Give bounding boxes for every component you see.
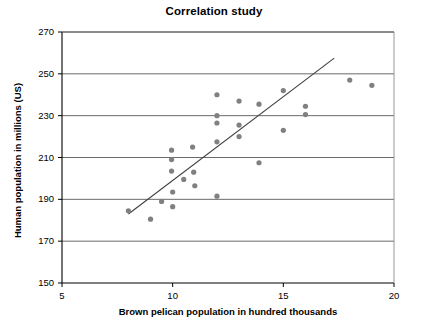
data-point <box>369 83 374 88</box>
data-point <box>126 208 131 213</box>
data-point <box>214 113 219 118</box>
y-tick-label: 190 <box>20 193 54 204</box>
data-point <box>191 170 196 175</box>
data-point <box>214 139 219 144</box>
x-tick-label: 15 <box>268 290 298 301</box>
data-point <box>347 78 352 83</box>
data-point <box>169 168 174 173</box>
chart-container: Correlation study Human population in mi… <box>0 0 428 331</box>
data-point <box>169 157 174 162</box>
data-point <box>190 144 195 149</box>
gridlines <box>62 32 394 241</box>
data-point <box>214 120 219 125</box>
data-point <box>170 204 175 209</box>
data-point <box>236 134 241 139</box>
data-point <box>236 98 241 103</box>
data-point <box>303 112 308 117</box>
y-tick-label: 210 <box>20 152 54 163</box>
data-point <box>148 217 153 222</box>
data-points <box>126 78 375 222</box>
data-point <box>214 194 219 199</box>
data-point <box>256 160 261 165</box>
y-tick-label: 250 <box>20 68 54 79</box>
plot-area <box>0 0 428 331</box>
x-tick-label: 20 <box>379 290 409 301</box>
y-tick-label: 270 <box>20 26 54 37</box>
x-tick-label: 10 <box>158 290 188 301</box>
data-point <box>281 128 286 133</box>
data-point <box>214 92 219 97</box>
data-point <box>170 189 175 194</box>
y-tick-label: 230 <box>20 110 54 121</box>
data-point <box>256 102 261 107</box>
y-tick-label: 170 <box>20 235 54 246</box>
data-point <box>169 148 174 153</box>
x-tick-label: 5 <box>47 290 77 301</box>
data-point <box>192 183 197 188</box>
axis-ticks <box>58 32 394 287</box>
data-point <box>236 122 241 127</box>
trendline <box>128 58 334 214</box>
data-point <box>181 177 186 182</box>
trendline-segment <box>128 58 334 214</box>
data-point <box>159 199 164 204</box>
y-tick-label: 150 <box>20 277 54 288</box>
data-point <box>281 88 286 93</box>
data-point <box>303 104 308 109</box>
